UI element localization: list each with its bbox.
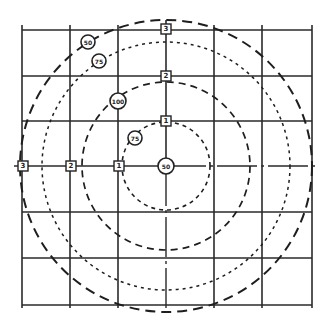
svg-text:1: 1 [117,162,122,170]
contour-label-75-inner: 75 [128,131,142,145]
distance-marker-h3: 3 [18,161,28,171]
contour-label-100: 100 [110,93,126,109]
svg-text:2: 2 [164,72,169,80]
contour-diagram: 75 100 75 50 50 1 2 3 [0,0,331,325]
svg-text:50: 50 [162,163,170,170]
svg-text:3: 3 [164,25,169,33]
distance-marker-v2: 2 [161,71,171,81]
distance-marker-h1: 1 [114,161,124,171]
distance-marker-v1: 1 [161,116,171,126]
svg-text:75: 75 [95,58,103,65]
svg-text:75: 75 [131,135,139,142]
distance-marker-h2: 2 [66,161,76,171]
svg-text:3: 3 [21,162,26,170]
svg-text:50: 50 [84,39,92,46]
center-marker: 50 [158,158,174,174]
svg-text:2: 2 [69,162,74,170]
svg-text:1: 1 [164,117,169,125]
svg-text:100: 100 [112,98,125,105]
contour-label-50: 50 [81,35,95,49]
distance-marker-v3: 3 [161,24,171,34]
contour-label-75-outer: 75 [92,54,106,68]
